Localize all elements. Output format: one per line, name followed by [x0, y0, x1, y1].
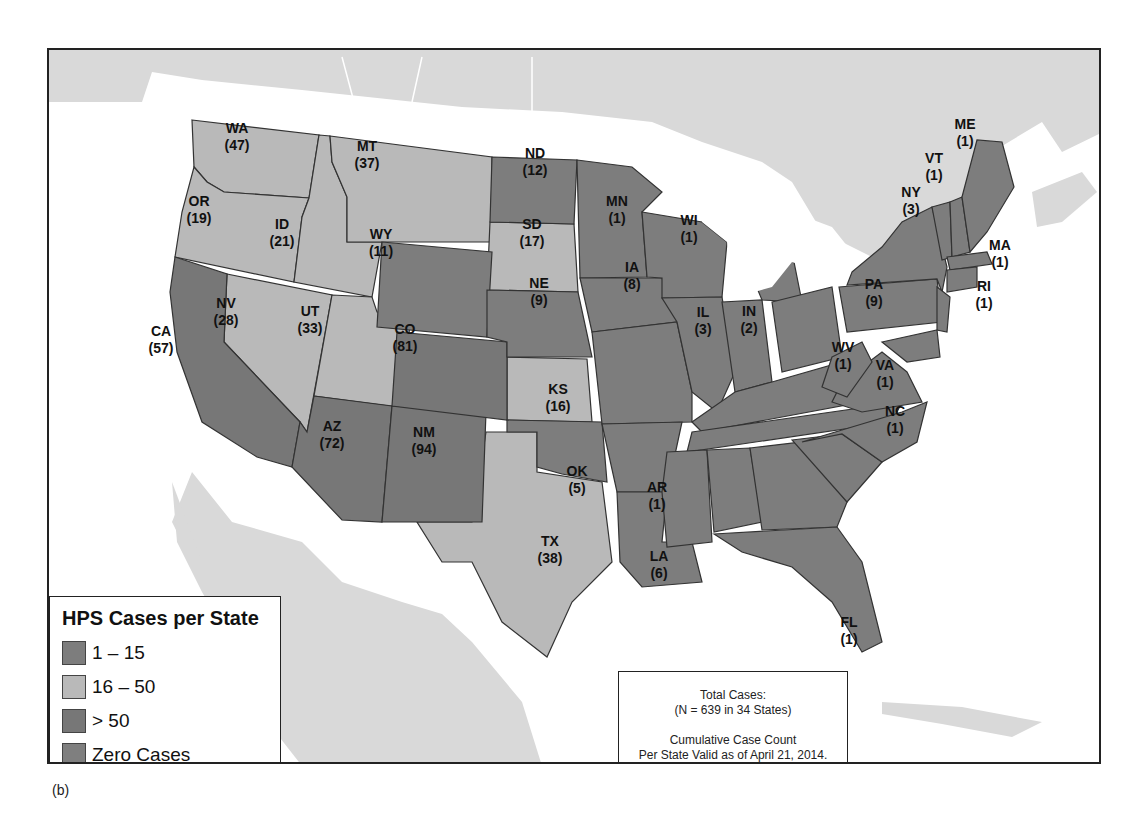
state-label-OK: OK(5) [567, 463, 588, 497]
state-label-IN: IN(2) [740, 303, 757, 337]
map-legend: HPS Cases per State 1 – 15 16 – 50 > 50 … [49, 596, 281, 764]
legend-swatch [62, 709, 86, 733]
legend-item-mid: 16 – 50 [62, 670, 270, 704]
state-label-LA: LA(6) [650, 548, 669, 582]
legend-label: 16 – 50 [92, 676, 155, 698]
state-label-PA: PA(9) [865, 276, 883, 310]
legend-swatch [62, 675, 86, 699]
source-note: Source: Viral Special Pathogens Branch, … [309, 760, 555, 764]
legend-swatch [62, 743, 86, 764]
state-label-MT: MT(37) [355, 138, 380, 172]
state-label-NV: NV(28) [214, 295, 239, 329]
state-label-SD: SD(17) [520, 216, 545, 250]
legend-title: HPS Cases per State [62, 607, 270, 630]
total-cases-box: Total Cases: (N = 639 in 34 States) Cumu… [618, 671, 848, 764]
state-label-AZ: AZ(72) [320, 418, 345, 452]
state-label-VA: VA(1) [876, 357, 894, 391]
legend-item-low: 1 – 15 [62, 636, 270, 670]
state-label-TX: TX(38) [538, 533, 563, 567]
infobox-line: Cumulative Case Count [619, 733, 847, 748]
legend-label: Zero Cases [92, 744, 190, 764]
state-label-KS: KS(16) [546, 381, 571, 415]
state-label-RI: RI(1) [975, 278, 992, 312]
state-label-ME: ME(1) [955, 116, 976, 150]
state-label-FL: FL(1) [840, 614, 857, 648]
legend-swatch [62, 641, 86, 665]
state-NJ [937, 287, 950, 332]
state-label-CO: CO(81) [393, 321, 418, 355]
legend-label: 1 – 15 [92, 642, 145, 664]
infobox-line: Per State Valid as of April 21, 2014. [619, 748, 847, 763]
state-PA [839, 279, 942, 332]
figure-caption: (b) [52, 782, 69, 798]
state-label-MA: MA(1) [989, 237, 1011, 271]
state-label-IL: IL(3) [694, 304, 711, 338]
state-label-WV: WV(1) [832, 339, 855, 373]
legend-item-high: > 50 [62, 704, 270, 738]
map-frame: WA(47) OR(19) CA(57) ID(21) NV(28) MT(37… [47, 48, 1101, 764]
legend-item-zero: Zero Cases [62, 738, 270, 764]
legend-label: > 50 [92, 710, 130, 732]
state-label-NY: NY(3) [901, 184, 920, 218]
state-MS [662, 450, 712, 547]
state-label-IA: IA(8) [623, 259, 640, 293]
state-label-NC: NC(1) [885, 403, 905, 437]
state-label-NE: NE(9) [529, 275, 548, 309]
state-label-NM: NM(94) [412, 424, 437, 458]
state-label-WA: WA(47) [225, 120, 250, 154]
state-label-WY: WY(11) [369, 226, 393, 260]
state-label-ID: ID(21) [270, 216, 295, 250]
state-MO [592, 322, 692, 424]
state-label-VT: VT(1) [925, 150, 943, 184]
infobox-line: Total Cases: [619, 688, 847, 703]
state-label-OR: OR(19) [187, 193, 212, 227]
state-label-CA: CA(57) [149, 323, 174, 357]
state-label-MN: MN(1) [606, 193, 628, 227]
state-label-AR: AR(1) [647, 479, 667, 513]
nova-scotia [1032, 172, 1097, 227]
state-CT [947, 267, 977, 292]
state-label-UT: UT(33) [298, 303, 323, 337]
state-label-WI: WI(1) [680, 212, 697, 246]
state-label-ND: ND(12) [523, 145, 548, 179]
infobox-line: (N = 639 in 34 States) [619, 703, 847, 718]
cuba [882, 702, 1042, 737]
